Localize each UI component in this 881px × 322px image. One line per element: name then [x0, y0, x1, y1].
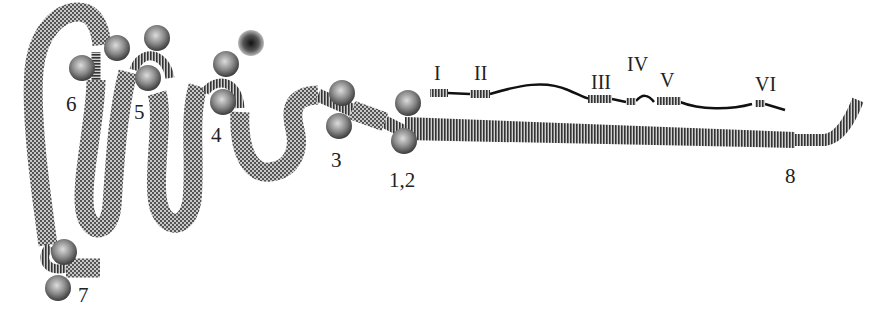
ball-4b	[210, 89, 236, 115]
segment-block-III	[588, 95, 612, 103]
ball-12b	[391, 128, 417, 154]
segment-label-III: III	[591, 71, 611, 93]
dark-ball	[238, 30, 264, 56]
segment-label-V: V	[660, 69, 675, 91]
ball-4a	[213, 51, 239, 77]
ball-7a	[51, 239, 77, 265]
coil-chain	[33, 12, 385, 268]
segment-label-II: II	[474, 62, 487, 84]
protein-domain-diagram: 6 5 4 3 1,2 7 8 I II III IV V VI	[0, 0, 881, 322]
site-label-4: 4	[211, 123, 222, 147]
segment-block-II	[470, 90, 490, 98]
binding-balls	[45, 25, 421, 301]
site-label-5: 5	[134, 100, 145, 124]
segment-block-VI	[755, 100, 765, 107]
segment-block-I	[430, 89, 448, 97]
segment-block-V	[657, 97, 681, 105]
ball-6a	[69, 55, 95, 81]
site-label-8: 8	[785, 164, 796, 188]
segment-label-I: I	[434, 62, 441, 84]
site-label-7: 7	[78, 283, 89, 307]
main-rod	[405, 100, 858, 148]
segment-labels: I II III IV V VI	[434, 53, 776, 95]
segment-block-IV	[626, 98, 636, 105]
ball-3a	[329, 80, 355, 106]
site-label-6: 6	[66, 92, 77, 116]
ball-5b	[135, 65, 161, 91]
ball-6b	[104, 35, 130, 61]
ball-7b	[45, 275, 71, 301]
ball-3b	[326, 113, 352, 139]
segment-label-IV: IV	[627, 53, 649, 75]
ball-12a	[395, 90, 421, 116]
site-label-3: 3	[331, 148, 342, 172]
site-label-1-2: 1,2	[389, 168, 415, 192]
ball-5a	[144, 25, 170, 51]
segment-label-VI: VI	[755, 73, 776, 95]
